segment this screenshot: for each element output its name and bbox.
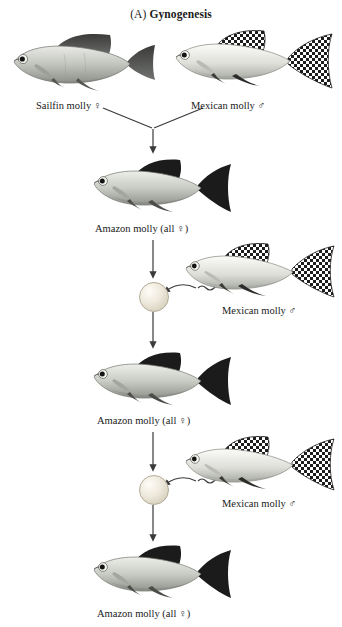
caption-mexican-molly-male-2: Mexican molly ♂ [222, 305, 296, 317]
page-title: (A) Gynogenesis [0, 8, 342, 20]
figure-panel: (A) Gynogenesis [0, 0, 342, 627]
caption-sailfin-molly-female: Sailfin molly ♀ [36, 100, 102, 112]
caption-amazon-molly-2: Amazon molly (all ♀) [97, 415, 190, 427]
fish-sailfin-molly-female [6, 26, 156, 102]
fish-mexican-molly-male-3 [178, 434, 336, 500]
fish-amazon-molly-1 [86, 155, 232, 225]
caption-mexican-molly-male-1: Mexican molly ♂ [191, 100, 265, 112]
egg-2 [139, 475, 169, 505]
fish-amazon-molly-2 [86, 348, 232, 418]
fish-amazon-molly-3 [86, 541, 232, 611]
panel-title: Gynogenesis [149, 8, 211, 20]
caption-mexican-molly-male-3: Mexican molly ♂ [222, 498, 296, 510]
caption-amazon-molly-1: Amazon molly (all ♀) [95, 223, 188, 235]
caption-amazon-molly-3: Amazon molly (all ♀) [97, 608, 190, 620]
egg-1 [139, 282, 169, 312]
fish-mexican-molly-male-2 [178, 241, 336, 307]
panel-tag: (A) [130, 8, 146, 20]
fish-mexican-molly-male-1 [168, 28, 334, 100]
